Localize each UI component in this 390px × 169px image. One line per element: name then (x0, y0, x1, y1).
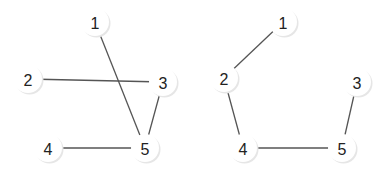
node-label: 4 (44, 141, 53, 158)
node-2: 2 (14, 65, 44, 95)
edges (224, 22, 357, 148)
node-label: 1 (279, 15, 288, 32)
node-5: 5 (131, 134, 161, 164)
edge-1-5 (95, 22, 145, 148)
nodes: 12345 (210, 8, 373, 164)
node-label: 2 (220, 71, 229, 88)
nodes: 12345 (14, 8, 179, 164)
edges (28, 22, 163, 148)
left-graph: 12345 (14, 8, 179, 164)
node-label: 4 (239, 141, 248, 158)
node-3: 3 (149, 68, 179, 98)
graphs-root: 1234512345 (14, 8, 373, 164)
node-4: 4 (34, 134, 64, 164)
node-2: 2 (210, 64, 240, 94)
node-label: 3 (159, 75, 168, 92)
node-1: 1 (81, 8, 111, 38)
graph-diagram: 1234512345 (0, 0, 390, 169)
node-4: 4 (229, 134, 259, 164)
node-label: 1 (91, 15, 100, 32)
node-label: 5 (141, 141, 150, 158)
node-3: 3 (343, 68, 373, 98)
node-5: 5 (328, 134, 358, 164)
node-label: 2 (24, 72, 33, 89)
node-1: 1 (269, 8, 299, 38)
right-graph: 12345 (210, 8, 373, 164)
edge-2-3 (28, 79, 163, 82)
node-label: 3 (353, 75, 362, 92)
node-label: 5 (338, 141, 347, 158)
